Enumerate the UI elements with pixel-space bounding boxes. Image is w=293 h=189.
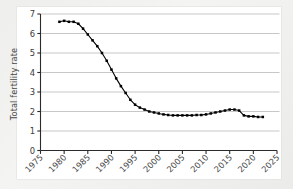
data-point-marker: [134, 103, 137, 106]
data-point-marker: [205, 113, 208, 116]
data-point-marker: [124, 92, 127, 95]
data-point-marker: [176, 114, 179, 117]
data-point-marker: [219, 110, 222, 113]
data-point-marker: [148, 110, 151, 113]
data-point-marker: [110, 68, 113, 71]
data-point-marker: [91, 39, 94, 42]
data-point-marker: [210, 112, 213, 115]
data-point-marker: [96, 45, 99, 48]
data-point-marker: [186, 114, 189, 117]
y-tick-label-7: 7: [30, 9, 35, 19]
data-line-series: [59, 21, 262, 117]
data-point-marker: [252, 115, 255, 118]
data-point-marker: [82, 27, 85, 30]
y-tick-label-1: 1: [30, 126, 35, 136]
x-tick-label-2000: 2000: [141, 152, 163, 174]
x-axis-ticks-group: 1975198019851990199520002005201020152020…: [23, 151, 282, 175]
fertility-rate-line-chart: 01234567 1975198019851990199520002005201…: [0, 0, 293, 189]
data-point-marker: [233, 108, 236, 111]
data-point-marker: [257, 116, 260, 119]
x-tick-label-2005: 2005: [165, 152, 187, 174]
data-point-marker: [262, 116, 265, 119]
data-point-marker: [224, 109, 227, 112]
data-point-marker: [162, 113, 165, 116]
data-point-marker: [105, 60, 108, 63]
data-point-marker: [191, 114, 194, 117]
data-point-marker: [87, 33, 90, 36]
data-point-marker: [195, 114, 198, 117]
y-axis-ticks-group: 01234567: [30, 9, 41, 156]
data-point-marker: [181, 114, 184, 117]
x-tick-label-2015: 2015: [212, 152, 234, 174]
data-point-marker: [143, 108, 146, 111]
data-point-marker: [120, 85, 123, 88]
y-tick-label-0: 0: [30, 146, 35, 156]
data-point-marker: [77, 23, 80, 26]
y-tick-label-6: 6: [30, 29, 35, 39]
x-tick-label-1995: 1995: [117, 152, 139, 174]
x-tick-label-1975: 1975: [23, 152, 45, 174]
x-tick-label-1990: 1990: [94, 152, 116, 174]
data-point-marker: [200, 114, 203, 117]
data-point-marker: [167, 114, 170, 117]
data-point-marker: [58, 21, 61, 24]
x-tick-label-1985: 1985: [70, 152, 92, 174]
x-tick-label-2020: 2020: [236, 152, 258, 174]
data-point-marker: [214, 111, 217, 114]
y-tick-label-2: 2: [30, 107, 35, 117]
x-tick-label-2010: 2010: [188, 152, 210, 174]
data-point-marker: [228, 108, 231, 111]
axis-lines-group: [41, 14, 278, 151]
y-tick-label-3: 3: [30, 87, 35, 97]
x-tick-label-2025: 2025: [259, 152, 281, 174]
chart-screenshot: Total fertility rate 01234567 1975198019…: [0, 0, 293, 189]
data-point-marker: [153, 111, 156, 114]
data-point-marker: [243, 114, 246, 117]
data-point-marker: [68, 21, 71, 24]
y-tick-label-5: 5: [30, 48, 35, 58]
data-point-marker: [158, 112, 161, 115]
data-point-marker: [238, 109, 241, 112]
y-tick-label-4: 4: [30, 68, 35, 78]
data-point-marker: [172, 114, 175, 117]
data-point-marker: [115, 77, 118, 80]
data-point-marker: [63, 20, 66, 23]
data-point-marker: [101, 52, 104, 55]
data-point-marker: [72, 21, 75, 24]
data-point-markers-group: [58, 20, 264, 119]
data-point-marker: [247, 115, 250, 118]
data-point-marker: [129, 99, 132, 102]
x-tick-label-1980: 1980: [46, 152, 68, 174]
data-point-marker: [139, 106, 142, 109]
